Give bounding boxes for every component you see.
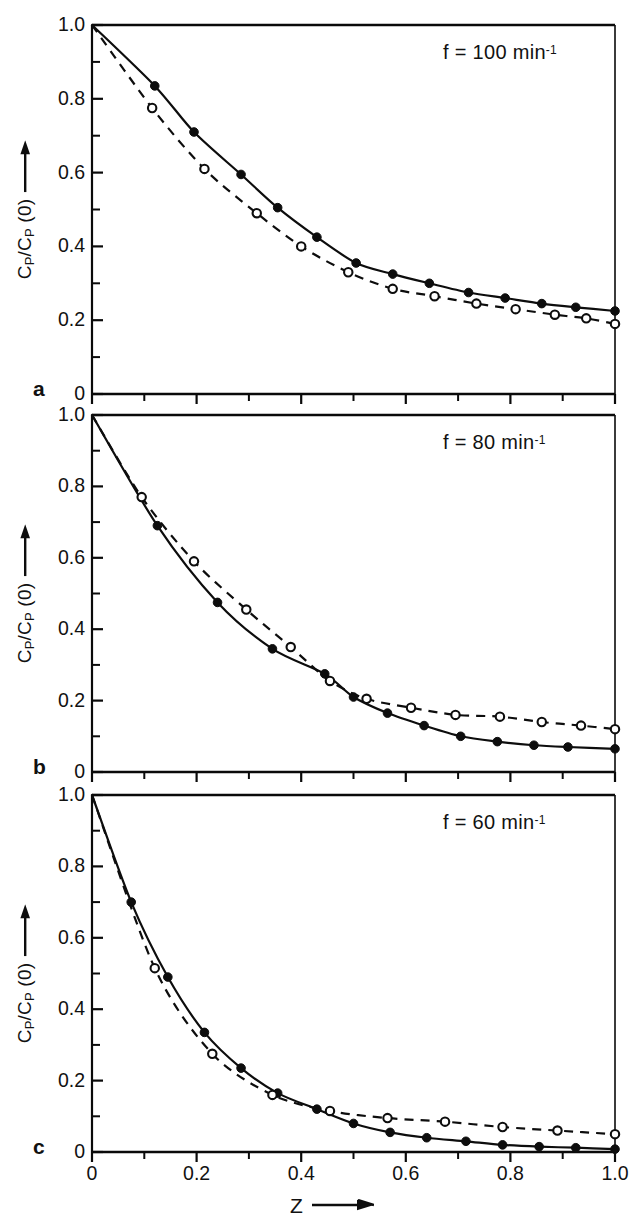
panel-c-series-open (92, 795, 619, 1138)
data-point-open (611, 1130, 619, 1138)
figure-root: 00.20.40.60.81.0CP/CP (0)af = 100 min-10… (0, 0, 643, 1222)
data-point-open (498, 1123, 506, 1131)
data-point-open (553, 1126, 561, 1134)
panel-c-y-axis-title: CP/CP (0) (4, 884, 48, 1064)
data-point-filled (535, 1142, 544, 1151)
data-point-filled (611, 1145, 620, 1154)
data-point-filled (498, 1141, 507, 1150)
x-tick-label: 0.6 (376, 1162, 436, 1185)
panel-c-y-tick-label: 0 (74, 1140, 85, 1163)
panel-c-y-tick-label: 0.8 (58, 854, 85, 877)
data-point-filled (164, 973, 173, 982)
data-point-open (383, 1114, 391, 1122)
data-point-filled (422, 1133, 431, 1142)
panel-letter-c: c (33, 1135, 45, 1159)
panel-c-y-ticks (92, 795, 103, 1152)
data-point-filled (462, 1137, 471, 1146)
data-point-open (326, 1107, 334, 1115)
panel-c-y-tick-label: 0.6 (58, 926, 85, 949)
y-axis-arrow-icon (17, 904, 35, 956)
x-axis-arrow-icon (312, 1197, 374, 1215)
panel-c-x-ticks (92, 1152, 615, 1162)
data-point-open (208, 1050, 216, 1058)
data-point-filled (386, 1128, 395, 1137)
data-point-open (268, 1091, 276, 1099)
x-tick-label: 0.2 (167, 1162, 227, 1185)
data-point-filled (571, 1143, 580, 1152)
x-axis-label-text: Z (290, 1194, 303, 1218)
x-tick-label: 1.0 (585, 1162, 643, 1185)
panel-c-y-tick-label: 1.0 (58, 783, 85, 806)
x-axis-title: Z (290, 1194, 374, 1218)
y-axis-label-text: CP/CP (0) (15, 963, 38, 1043)
panel-c-plot (0, 0, 643, 1222)
data-point-open (441, 1117, 449, 1125)
panel-c-y-tick-label: 0.4 (58, 997, 85, 1020)
panel-c-y-tick-label: 0.2 (58, 1069, 85, 1092)
panel-c-annotation: f = 60 min-1 (443, 811, 546, 834)
x-tick-label: 0.4 (271, 1162, 331, 1185)
x-tick-label: 0.8 (480, 1162, 540, 1185)
data-point-filled (349, 1119, 358, 1128)
panel-c-series-filled (92, 795, 619, 1153)
x-tick-label: 0 (62, 1162, 122, 1185)
data-point-filled (200, 1028, 209, 1037)
data-point-filled (237, 1064, 246, 1073)
data-point-open (151, 964, 159, 972)
